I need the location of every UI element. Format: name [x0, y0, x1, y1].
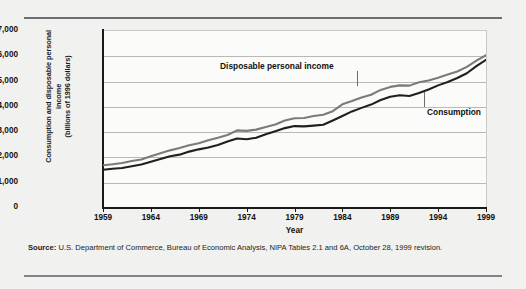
- x-tick-mark: [486, 208, 487, 212]
- y-tick-label: 0: [0, 202, 18, 211]
- y-tick-label: 6,000: [0, 50, 18, 59]
- x-tick-mark: [390, 208, 391, 212]
- leader-line-disposable-personal-income: [357, 71, 358, 86]
- source-label: Source:: [28, 243, 56, 252]
- y-tick-label: $7,000: [0, 25, 18, 34]
- annotation-consumption: Consumption: [427, 107, 481, 117]
- figure-container: Consumption and disposable personal inco…: [0, 0, 526, 289]
- bottom-divider-rule: [24, 275, 502, 277]
- x-tick-mark: [103, 208, 104, 212]
- x-tick-label: 1959: [83, 213, 123, 222]
- x-tick-label: 1994: [418, 213, 458, 222]
- y-axis-title-line1: Consumption and disposable personal inco…: [44, 30, 63, 163]
- x-tick-label: 1964: [131, 213, 171, 222]
- x-tick-mark: [199, 208, 200, 212]
- chart-region: Consumption and disposable personal inco…: [24, 22, 502, 237]
- source-text: U.S. Department of Commerce, Bureau of E…: [58, 243, 442, 252]
- x-tick-label: 1989: [370, 213, 410, 222]
- x-tick-mark: [151, 208, 152, 212]
- x-tick-label: 1974: [227, 213, 267, 222]
- x-tick-mark: [247, 208, 248, 212]
- x-tick-mark: [295, 208, 296, 212]
- y-tick-label: 5,000: [0, 76, 18, 85]
- leader-line-consumption: [424, 92, 425, 107]
- x-tick-label: 1969: [179, 213, 219, 222]
- y-tick-label: 1,000: [0, 177, 18, 186]
- annotation-disposable-personal-income: Disposable personal income: [220, 61, 334, 71]
- top-divider-rule: [24, 17, 502, 19]
- x-tick-mark: [438, 208, 439, 212]
- y-axis-title: Consumption and disposable personal inco…: [44, 16, 73, 176]
- y-tick-label: 2,000: [0, 151, 18, 160]
- x-tick-label: 1979: [275, 213, 315, 222]
- y-tick-label: 3,000: [0, 126, 18, 135]
- series-lines: [103, 30, 486, 207]
- x-tick-mark: [342, 208, 343, 212]
- y-axis-title-line2: (billions of 1996 dollars): [63, 55, 72, 137]
- x-axis-title: Year: [103, 226, 486, 235]
- x-tick-label: 1999: [466, 213, 506, 222]
- source-note: Source: U.S. Department of Commerce, Bur…: [28, 243, 478, 254]
- x-tick-label: 1984: [322, 213, 362, 222]
- y-tick-label: 4,000: [0, 101, 18, 110]
